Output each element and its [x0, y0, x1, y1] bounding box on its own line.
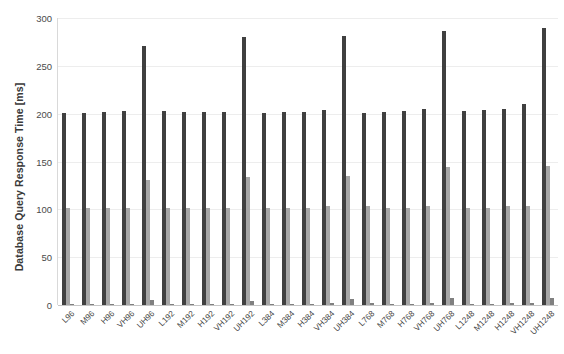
bar [406, 208, 409, 305]
bar [242, 37, 245, 305]
bar [206, 208, 209, 305]
x-tick-label-text: L768 [357, 309, 376, 328]
bar [486, 208, 489, 305]
bar-group [478, 18, 498, 305]
bar [446, 167, 449, 305]
bar [306, 208, 309, 305]
bar [362, 113, 365, 305]
bar [542, 28, 545, 305]
bar [286, 208, 289, 305]
bar [262, 113, 265, 305]
bar-group [318, 18, 338, 305]
bar [526, 206, 529, 305]
bar-group [538, 18, 558, 305]
bar [202, 112, 205, 305]
bar-group [218, 18, 238, 305]
bar [342, 36, 345, 305]
bar [186, 208, 189, 305]
bar-group [198, 18, 218, 305]
bar [522, 104, 525, 305]
bar [102, 112, 105, 305]
bar [106, 208, 109, 305]
bar [162, 111, 165, 305]
x-tick-label-text: M96 [79, 309, 97, 327]
y-tick-label-100: 100 [36, 204, 52, 215]
bar-group [178, 18, 198, 305]
x-axis-tick-labels: L96M96H96VH96UH96L192M192H192VH192UH192L… [57, 305, 557, 354]
bar [142, 46, 145, 305]
bar [122, 111, 125, 305]
bar-group [258, 18, 278, 305]
y-tick-label-50: 50 [41, 252, 52, 263]
bar-group [138, 18, 158, 305]
bar [442, 31, 445, 305]
y-axis-tick-labels: 050100150200250300 [26, 0, 52, 354]
bar [462, 111, 465, 305]
bar [86, 208, 89, 305]
bar [382, 112, 385, 305]
bar-group [158, 18, 178, 305]
bar-group [58, 18, 78, 305]
bar [226, 208, 229, 305]
bar [546, 166, 549, 305]
bar-group [498, 18, 518, 305]
y-tick-label-250: 250 [36, 60, 52, 71]
bar [386, 208, 389, 305]
bar-group [98, 18, 118, 305]
bar [322, 110, 325, 305]
bar [246, 177, 249, 305]
bar-group [78, 18, 98, 305]
x-tick-label-text: L192 [157, 309, 176, 328]
bar [166, 208, 169, 305]
bar-group [378, 18, 398, 305]
bar [346, 176, 349, 305]
bar-group [438, 18, 458, 305]
bar [282, 112, 285, 305]
bar-group [338, 18, 358, 305]
bar [66, 208, 69, 305]
chart-container: Database Query Response Time [ms] 050100… [0, 0, 564, 354]
bar-group [358, 18, 378, 305]
bar-group [458, 18, 478, 305]
bar-group [418, 18, 438, 305]
bar [326, 206, 329, 305]
bar [302, 112, 305, 305]
bar-group [118, 18, 138, 305]
bar [402, 111, 405, 305]
bar-group [398, 18, 418, 305]
bar-group [238, 18, 258, 305]
y-tick-label-300: 300 [36, 13, 52, 24]
y-tick-label-0: 0 [47, 300, 52, 311]
bar [82, 113, 85, 305]
bar [502, 109, 505, 305]
bar [126, 208, 129, 305]
plot-area [57, 18, 558, 305]
bar [426, 206, 429, 305]
bar [482, 110, 485, 305]
bar-group [298, 18, 318, 305]
bar-group [278, 18, 298, 305]
y-tick-label-200: 200 [36, 108, 52, 119]
bar-group [518, 18, 538, 305]
x-tick-label-text: L96 [60, 309, 76, 325]
x-tick-label-text: L384 [257, 309, 276, 328]
y-tick-label-150: 150 [36, 156, 52, 167]
bar [62, 113, 65, 305]
bar [222, 112, 225, 305]
x-tick-label-text: H96 [99, 309, 116, 326]
bar [182, 112, 185, 305]
bar [422, 109, 425, 305]
bar [146, 180, 149, 305]
